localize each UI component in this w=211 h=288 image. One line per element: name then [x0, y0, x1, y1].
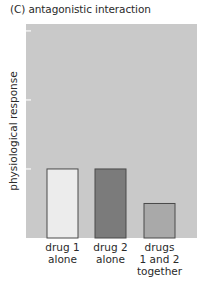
bar-2: [95, 169, 126, 238]
bar-3: [144, 203, 175, 238]
x-tick-label-3: drugs1 and 2together: [130, 241, 190, 277]
bar-1: [47, 169, 78, 238]
